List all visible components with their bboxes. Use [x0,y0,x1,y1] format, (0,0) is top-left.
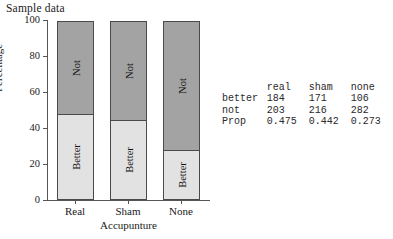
chart-title: Sample data [6,2,65,14]
bar-segment-not: Not [110,21,147,121]
table-cell: 216 [309,105,351,116]
table-row: Prop 0.475 0.442 0.273 [222,116,393,127]
bar-none: Not Better [163,21,200,200]
y-axis-tick-label: 20 [14,158,40,169]
y-axis-tick [43,92,48,93]
table-row: not 203 216 282 [222,105,393,116]
table-cell: 171 [309,93,351,104]
y-axis-tick [43,164,48,165]
table-header-row: real sham none [222,82,393,93]
bar-real: Not Better [57,21,94,200]
y-axis-tick [43,128,48,129]
table-header-cell: none [351,82,393,93]
table-cell: 203 [267,105,309,116]
y-axis-tick-label: 100 [14,14,40,25]
bar-segment-better: Better [163,151,200,200]
y-axis-line [47,20,48,201]
table-row-label: Prop [222,116,267,127]
y-axis-tick-label: 60 [14,86,40,97]
table-cell: 106 [351,93,393,104]
bar-segment-label: Not [70,60,81,76]
bar-segment-not: Not [163,21,200,151]
bar-segment-not: Not [57,21,94,115]
table-row-label: better [222,93,267,104]
x-axis-tick [181,200,182,204]
table-row: better 184 171 106 [222,93,393,104]
table-header-cell [222,82,267,93]
table-header-cell: real [267,82,309,93]
x-axis-tick-label: None [151,205,211,217]
chart-canvas: Sample data 100 80 60 40 20 0 Percentage… [0,0,393,239]
data-table: real sham none better 184 171 106 not 20… [222,82,393,128]
table-cell: 184 [267,93,309,104]
bar-segment-label: Not [123,63,134,79]
y-axis-tick [43,20,48,21]
table-cell: 0.475 [267,116,309,127]
x-axis-tick-label: Real [45,205,105,217]
table-cell: 282 [351,105,393,116]
x-axis-title: Accupunture [47,219,210,231]
table-row-label: not [222,105,267,116]
y-axis-title: Percentage [0,44,4,92]
y-axis-tick-label: 40 [14,122,40,133]
x-axis-tick [75,200,76,204]
bar-segment-label: Better [176,162,187,188]
table-cell: 0.273 [351,116,393,127]
bar-sham: Not Better [110,21,147,200]
x-axis-tick [128,200,129,204]
bar-segment-label: Not [176,78,187,94]
y-axis-tick-label: 0 [14,194,40,205]
y-axis-tick [43,56,48,57]
bar-segment-label: Better [70,144,81,170]
bar-segment-better: Better [57,115,94,200]
y-axis-tick-label: 80 [14,50,40,61]
bar-segment-better: Better [110,121,147,200]
table-header-cell: sham [309,82,351,93]
table-cell: 0.442 [309,116,351,127]
bar-segment-label: Better [123,147,134,173]
x-axis-tick-label: Sham [98,205,158,217]
